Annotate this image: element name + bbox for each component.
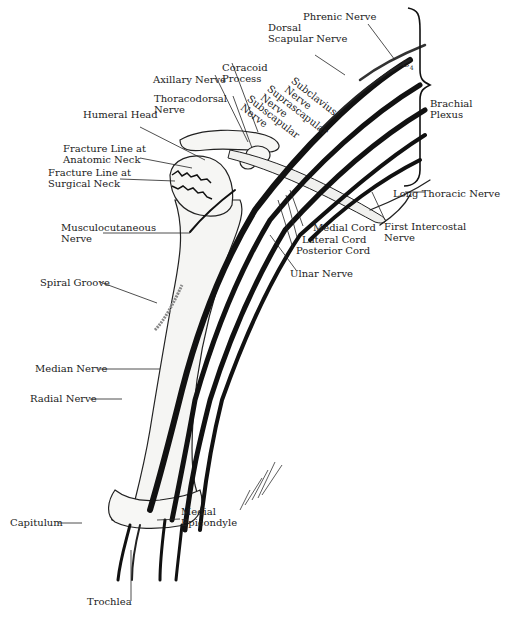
label-musculocutaneous-nerve: Musculocutaneous Nerve xyxy=(61,222,156,244)
label-humeral-head: Humeral Head xyxy=(83,109,158,120)
label-fracture-anatomic-neck: Fracture Line at Anatomic Neck xyxy=(63,143,146,165)
label-ulnar-nerve: Ulnar Nerve xyxy=(290,268,353,279)
label-median-nerve: Median Nerve xyxy=(35,363,107,374)
label-dorsal-scapular-nerve: Dorsal Scapular Nerve xyxy=(268,22,347,44)
c4-subscript: 4 xyxy=(410,64,414,71)
label-fracture-surgical-neck: Fracture Line at Surgical Neck xyxy=(48,167,131,189)
label-thoracodorsal-nerve: Thoracodorsal Nerve xyxy=(154,93,227,115)
label-lateral-cord: Lateral Cord xyxy=(302,234,367,245)
label-brachial-plexus: Brachial Plexus xyxy=(430,98,473,120)
label-radial-nerve: Radial Nerve xyxy=(30,393,97,404)
label-coracoid-process: Coracoid Process xyxy=(222,62,268,84)
label-spiral-groove: Spiral Groove xyxy=(40,277,110,288)
arm-illustration xyxy=(0,0,513,629)
label-medial-epicondyle: Medial Epicondyle xyxy=(181,506,237,528)
artist-signature xyxy=(240,462,282,510)
label-posterior-cord: Posterior Cord xyxy=(296,245,370,256)
c4-letter: C xyxy=(402,58,410,69)
label-axillary-nerve: Axillary Nerve xyxy=(153,74,226,85)
label-capitulum: Capitulum xyxy=(10,517,63,528)
label-first-intercostal-nerve: First Intercostal Nerve xyxy=(384,221,466,243)
label-long-thoracic-nerve: Long Thoracic Nerve xyxy=(393,188,500,199)
label-c4: C4 xyxy=(402,58,413,73)
label-trochlea: Trochlea xyxy=(87,596,132,607)
label-medial-cord: Medial Cord xyxy=(313,222,376,233)
anatomy-figure: Phrenic Nerve Dorsal Scapular Nerve C4 B… xyxy=(0,0,513,629)
label-phrenic-nerve: Phrenic Nerve xyxy=(303,11,376,22)
